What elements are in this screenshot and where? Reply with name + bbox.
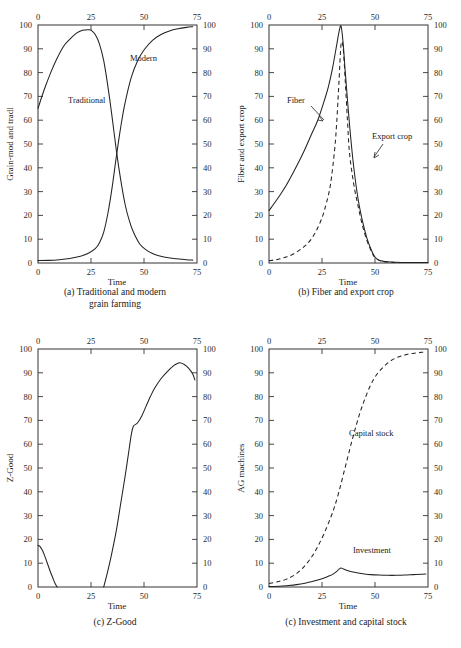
y-tick-right-40: 40 [434, 163, 443, 173]
y-tick-right-30: 30 [434, 511, 443, 521]
y-tick-left-20: 20 [24, 210, 33, 220]
y-tick-left-30: 30 [24, 511, 33, 521]
panel-a-label-modern: Modern [130, 53, 158, 63]
panel-c-tick-labels: 0025255050757500101020203030404050506060… [19, 336, 216, 601]
x-tick-bottom-25: 25 [87, 591, 96, 601]
x-tick-bottom-50: 50 [371, 591, 380, 601]
y-tick-left-50: 50 [255, 463, 264, 473]
y-tick-right-10: 10 [434, 558, 443, 568]
y-tick-right-90: 90 [434, 368, 443, 378]
y-tick-left-100: 100 [250, 20, 263, 30]
panel-a-ticks [38, 25, 197, 263]
y-tick-left-50: 50 [24, 463, 33, 473]
panel-a-ylabel: Grain-mod and tradl [5, 107, 15, 181]
y-tick-right-10: 10 [434, 234, 443, 244]
y-tick-right-30: 30 [203, 187, 212, 197]
panel-b-tick-labels: 0025255050757500101020203030404050506060… [250, 12, 447, 277]
y-tick-left-20: 20 [255, 534, 264, 544]
y-tick-left-40: 40 [24, 487, 33, 497]
x-tick-bottom-50: 50 [371, 267, 380, 277]
y-tick-left-70: 70 [24, 91, 33, 101]
y-tick-left-60: 60 [255, 115, 264, 125]
y-tick-left-30: 30 [24, 187, 33, 197]
panel-d-chart: 0025255050757500101020203030404050506060… [231, 324, 461, 624]
y-tick-left-70: 70 [24, 415, 33, 425]
panel-b-curves [269, 26, 428, 263]
x-tick-bottom-0: 0 [267, 591, 271, 601]
y-tick-left-80: 80 [255, 392, 264, 402]
y-tick-right-0: 0 [434, 258, 438, 268]
y-tick-left-100: 100 [19, 20, 32, 30]
y-tick-right-80: 80 [203, 68, 212, 78]
y-tick-left-70: 70 [255, 415, 264, 425]
panel-b-label-export-crop: Export crop [372, 131, 412, 141]
series-z-good-initial-decline [38, 545, 57, 587]
y-tick-left-70: 70 [255, 91, 264, 101]
y-tick-left-50: 50 [255, 139, 264, 149]
y-tick-right-40: 40 [203, 163, 212, 173]
panel-a-label-traditional: Traditional [68, 95, 106, 105]
series-traditional [38, 30, 193, 260]
x-tick-bottom-75: 75 [424, 591, 433, 601]
x-tick-top-0: 0 [267, 12, 271, 22]
x-tick-top-25: 25 [318, 12, 327, 22]
x-tick-top-75: 75 [193, 336, 202, 346]
panel-a-curves [38, 27, 193, 261]
x-tick-bottom-0: 0 [36, 591, 40, 601]
y-tick-right-20: 20 [434, 210, 443, 220]
series-z-good-recovery [104, 363, 195, 587]
panel-c-ylabel: Z-Good [5, 453, 15, 482]
panel-a-chart: 0025255050757500101020203030404050506060… [0, 0, 230, 300]
y-tick-left-80: 80 [24, 392, 33, 402]
panel-a-tick-labels: 0025255050757500101020203030404050506060… [19, 12, 216, 277]
x-tick-bottom-25: 25 [87, 267, 96, 277]
x-tick-top-75: 75 [193, 12, 202, 22]
y-tick-right-100: 100 [434, 20, 447, 30]
y-tick-right-10: 10 [203, 234, 212, 244]
x-tick-bottom-25: 25 [318, 267, 327, 277]
y-tick-left-0: 0 [259, 258, 263, 268]
y-tick-right-70: 70 [203, 91, 212, 101]
series-capital-stock [269, 352, 426, 584]
panel-a-traditional-modern: 0025255050757500101020203030404050506060… [0, 0, 230, 324]
y-tick-left-90: 90 [24, 44, 33, 54]
y-tick-right-100: 100 [203, 20, 216, 30]
panel-d-label-capital-stock: Capital stock [349, 428, 394, 438]
y-tick-right-20: 20 [203, 210, 212, 220]
x-tick-bottom-75: 75 [193, 591, 202, 601]
y-tick-left-0: 0 [28, 582, 32, 592]
panel-b-chart: 0025255050757500101020203030404050506060… [231, 0, 461, 300]
series-fiber [269, 26, 428, 263]
x-tick-top-75: 75 [424, 12, 433, 22]
y-tick-left-40: 40 [255, 487, 264, 497]
panel-d-caption-line1: (c) Investment and capital stock [231, 616, 461, 628]
y-tick-left-80: 80 [24, 68, 33, 78]
x-tick-top-75: 75 [424, 336, 433, 346]
panel-b-plot-frame [269, 25, 428, 263]
y-tick-right-100: 100 [203, 344, 216, 354]
y-tick-right-60: 60 [434, 115, 443, 125]
x-tick-top-25: 25 [87, 336, 96, 346]
figure-container: 0025255050757500101020203030404050506060… [0, 0, 461, 648]
panel-d-plot-frame [269, 349, 428, 587]
y-tick-left-80: 80 [255, 68, 264, 78]
panel-c-z-good: 0025255050757500101020203030404050506060… [0, 324, 230, 648]
x-tick-bottom-75: 75 [193, 267, 202, 277]
x-tick-bottom-50: 50 [140, 267, 149, 277]
y-tick-right-20: 20 [434, 534, 443, 544]
y-tick-left-20: 20 [24, 534, 33, 544]
panel-b-fiber-export: 0025255050757500101020203030404050506060… [231, 0, 461, 324]
y-tick-right-50: 50 [203, 463, 212, 473]
panel-d-ylabel: AG machines [236, 443, 246, 493]
y-tick-left-10: 10 [24, 558, 33, 568]
y-tick-right-0: 0 [434, 582, 438, 592]
y-tick-right-90: 90 [434, 44, 443, 54]
panel-a-caption-line2: grain farming [0, 298, 230, 310]
y-tick-right-80: 80 [203, 392, 212, 402]
panel-c-xlabel: Time [108, 601, 127, 611]
panel-d-curves [269, 352, 426, 587]
panel-c-curves [38, 363, 195, 587]
y-tick-left-60: 60 [24, 115, 33, 125]
y-tick-left-90: 90 [255, 44, 264, 54]
y-tick-right-50: 50 [203, 139, 212, 149]
